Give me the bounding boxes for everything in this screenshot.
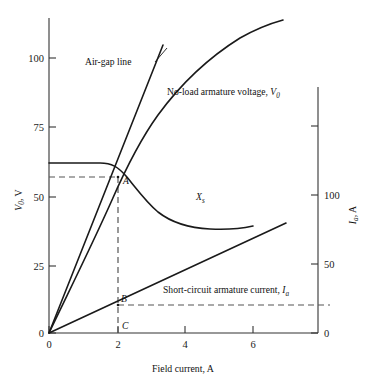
left-axis-group <box>49 18 56 333</box>
point-marker-A <box>117 176 120 179</box>
right-axis-group <box>311 87 318 333</box>
guide-lines-group <box>49 177 330 333</box>
occ-annotation-subscript: 0 <box>276 92 280 100</box>
left-tick-label-50: 50 <box>34 192 45 203</box>
y-right-axis-title: Ia, A <box>347 206 360 225</box>
scc-annotation-text: Short-circuit armature current, <box>163 284 282 295</box>
left-tick-labels: 100 75 50 25 0 <box>28 53 44 339</box>
annotation-no-load-armature-voltage: No-load armature voltage, V0 <box>167 86 280 100</box>
curve-xs <box>49 163 253 229</box>
right-tick-labels: 100 50 0 <box>324 190 340 339</box>
annotation-air-gap-line: Air-gap line <box>85 56 131 67</box>
x-axis-group <box>49 326 318 333</box>
x-tick-label-2: 2 <box>115 339 120 350</box>
occ-annotation-text: No-load armature voltage, <box>167 86 270 97</box>
x-tick-labels: 0 2 4 6 <box>46 339 255 350</box>
x-tick-label-6: 6 <box>250 339 255 350</box>
curve-air-gap-line <box>49 45 163 333</box>
y-left-title-unit: , V <box>13 189 24 201</box>
x-tick-label-0: 0 <box>46 339 51 350</box>
annotation-xs: Xs <box>195 191 205 205</box>
svg-text:Ia, A: Ia, A <box>347 206 360 225</box>
x-tick-label-4: 4 <box>182 339 188 350</box>
annotation-short-circuit-armature-current: Short-circuit armature current, Ia <box>163 284 290 298</box>
y-right-title-unit: , A <box>347 206 358 217</box>
point-label-A: A <box>122 175 129 186</box>
right-tick-label-100: 100 <box>324 190 340 201</box>
scc-annotation-subscript: a <box>286 290 290 298</box>
point-label-C: C <box>122 320 129 331</box>
left-tick-label-25: 25 <box>34 261 45 272</box>
figure-synchronous-machine-characteristics: 100 75 50 25 0 100 50 0 0 2 4 6 Field cu… <box>0 0 377 385</box>
x-axis-title: Field current, A <box>152 363 214 374</box>
svg-text:V0, V: V0, V <box>13 189 26 210</box>
point-label-B: B <box>121 293 127 304</box>
xs-annotation-subscript: s <box>202 197 205 205</box>
point-marker-B <box>117 304 120 307</box>
left-tick-label-100: 100 <box>28 53 44 64</box>
right-tick-label-50: 50 <box>324 259 335 270</box>
left-tick-label-0: 0 <box>39 328 44 339</box>
chart-canvas: 100 75 50 25 0 100 50 0 0 2 4 6 Field cu… <box>0 0 377 385</box>
curve-short-circuit-armature-current <box>49 223 286 333</box>
right-tick-label-0: 0 <box>324 328 329 339</box>
y-left-axis-title: V0, V <box>13 189 26 210</box>
left-tick-label-75: 75 <box>34 122 45 133</box>
